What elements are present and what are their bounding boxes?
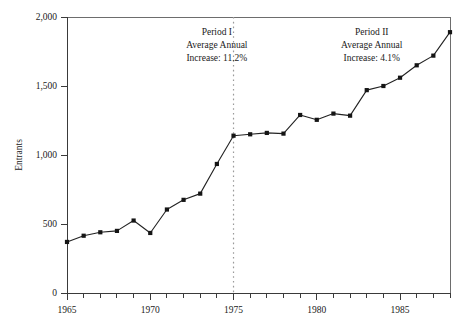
data-point-marker	[132, 218, 136, 222]
y-tick-label: 1,500	[36, 81, 58, 91]
data-point-marker	[331, 112, 335, 116]
data-point-marker	[65, 240, 69, 244]
data-point-marker	[248, 132, 252, 136]
annotation-line: Average Annual	[341, 40, 403, 50]
data-point-marker	[265, 131, 269, 135]
chart-container: 05001,0001,5002,000 19651970197519801985…	[0, 0, 472, 336]
data-point-marker	[198, 192, 202, 196]
data-point-marker	[215, 162, 219, 166]
data-point-marker	[398, 76, 402, 80]
data-point-marker	[381, 84, 385, 88]
x-tick-label: 1980	[307, 305, 326, 315]
x-tick-label: 1985	[391, 305, 410, 315]
chart-background	[0, 0, 472, 336]
x-tick-label: 1975	[224, 305, 243, 315]
data-point-marker	[181, 198, 185, 202]
y-tick-label: 1,000	[36, 150, 58, 160]
data-point-marker	[315, 118, 319, 122]
x-tick-label: 1965	[58, 305, 77, 315]
data-point-marker	[415, 63, 419, 67]
annotation-line: Increase: 4.1%	[344, 53, 401, 63]
y-tick-label: 0	[52, 288, 57, 298]
data-point-marker	[98, 230, 102, 234]
data-point-marker	[115, 229, 119, 233]
data-point-marker	[281, 132, 285, 136]
data-point-marker	[365, 88, 369, 92]
data-point-marker	[298, 113, 302, 117]
y-tick-label: 500	[43, 219, 58, 229]
data-point-marker	[231, 134, 235, 138]
data-point-marker	[448, 30, 452, 34]
y-axis-title: Entrants	[14, 139, 24, 171]
annotation-line: Increase: 11.2%	[186, 53, 247, 63]
y-tick-label: 2,000	[36, 12, 58, 22]
annotation-line: Period II	[355, 27, 389, 37]
entrants-line-chart: 05001,0001,5002,000 19651970197519801985…	[0, 0, 472, 336]
x-tick-label: 1970	[141, 305, 160, 315]
data-point-marker	[431, 54, 435, 58]
data-point-marker	[148, 231, 152, 235]
data-point-marker	[165, 207, 169, 211]
annotation-line: Average Annual	[186, 40, 248, 50]
annotation-line: Period I	[202, 27, 232, 37]
data-point-marker	[348, 114, 352, 118]
data-point-marker	[82, 234, 86, 238]
